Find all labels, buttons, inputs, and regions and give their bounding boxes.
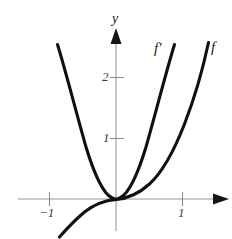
y-axis-label: y — [112, 12, 118, 26]
arrow-up-icon — [111, 28, 122, 44]
graph-canvas — [0, 0, 232, 239]
curve-label-f: f — [211, 40, 215, 55]
curve-label-f-prime: f′ — [154, 41, 161, 56]
x-tick-label-pos1: 1 — [178, 206, 185, 219]
y-tick-label-1: 1 — [103, 131, 110, 144]
math-figure: y f′ f 2 1 −1 1 — [0, 0, 232, 239]
arrow-right-icon — [213, 194, 229, 205]
y-tick-label-2: 2 — [102, 70, 109, 83]
curve-f — [60, 43, 209, 238]
x-tick-label-neg1: −1 — [39, 206, 54, 219]
